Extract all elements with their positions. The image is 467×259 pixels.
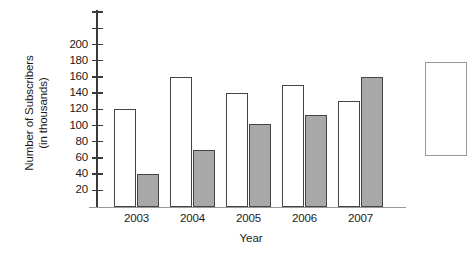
y-tick-label-200: 200 <box>54 39 88 51</box>
x-tick-label-2005: 2005 <box>218 212 279 224</box>
y-tick-label-160: 160 <box>54 71 88 83</box>
y-tick-label-60: 60 <box>54 152 88 164</box>
bar-2004-series1 <box>170 77 192 207</box>
y-tick-180 <box>92 60 103 62</box>
bar-2005-series1 <box>226 93 248 206</box>
y-axis-title-line2: (in thousands) <box>36 55 50 171</box>
y-tick-label-180: 180 <box>54 55 88 67</box>
chart-title-remnant: . <box>268 0 282 3</box>
bar-2007-series1 <box>338 101 360 206</box>
bar-2007-series2 <box>361 77 383 207</box>
y-tick-20 <box>92 190 103 192</box>
y-tick-40 <box>92 173 103 175</box>
y-tick-160 <box>92 76 103 78</box>
y-axis-tick-labels: 20406080100120140160180200 <box>52 0 88 259</box>
y-tick-60 <box>92 157 103 159</box>
bar-2005-series2 <box>249 124 271 207</box>
bar-group-2003 <box>114 9 159 207</box>
x-tick-label-2004: 2004 <box>162 212 223 224</box>
x-axis-baseline <box>89 207 406 209</box>
y-tick-label-40: 40 <box>54 168 88 180</box>
bar-group-2006 <box>282 9 327 207</box>
legend-box-cropped <box>425 62 467 156</box>
y-tick-label-140: 140 <box>54 87 88 99</box>
bar-2006-series2 <box>305 115 327 207</box>
y-tick-unlabeled-1 <box>92 28 103 30</box>
bar-2006-series1 <box>282 85 304 207</box>
y-tick-120 <box>92 109 103 111</box>
y-tick-80 <box>92 141 103 143</box>
x-tick-label-2006: 2006 <box>274 212 335 224</box>
bar-group-2004 <box>170 9 215 207</box>
bar-group-2005 <box>226 9 271 207</box>
y-tick-unlabeled-2 <box>92 11 103 13</box>
bar-2003-series2 <box>137 174 159 206</box>
y-tick-label-100: 100 <box>54 120 88 132</box>
y-axis-title-line1: Number of Subscribers <box>23 55 35 171</box>
x-tick-label-2003: 2003 <box>106 212 167 224</box>
x-tick-label-2007: 2007 <box>330 212 391 224</box>
y-tick-label-20: 20 <box>54 184 88 196</box>
x-axis-title: Year <box>96 232 406 244</box>
plot-area <box>96 10 406 208</box>
y-tick-140 <box>92 92 103 94</box>
y-tick-label-120: 120 <box>54 103 88 115</box>
bar-2003-series1 <box>114 109 136 206</box>
y-tick-100 <box>92 125 103 127</box>
y-tick-label-80: 80 <box>54 136 88 148</box>
bar-2004-series2 <box>193 150 215 207</box>
bar-group-2007 <box>338 9 383 207</box>
y-tick-200 <box>92 44 103 46</box>
